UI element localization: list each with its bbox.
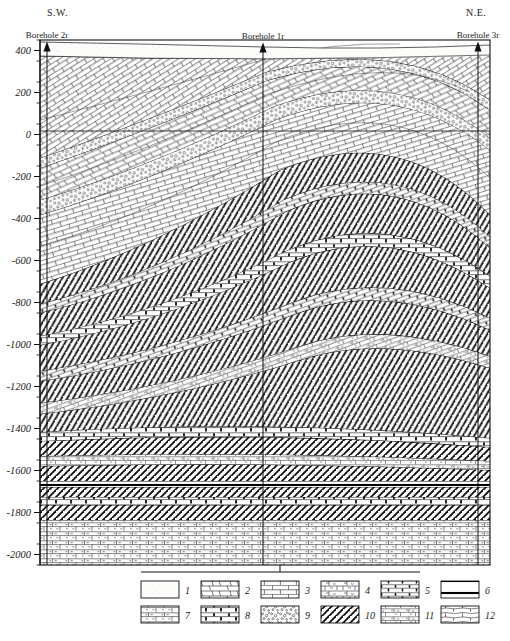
deep-layers: [40, 426, 490, 565]
swatch-1: [141, 581, 179, 598]
legend-number: 3: [304, 585, 310, 596]
y-tick-label: 200: [15, 87, 32, 98]
y-tick-label: -1400: [7, 423, 32, 434]
swatch-5: [381, 581, 419, 598]
y-tick-label: -2000: [7, 549, 32, 560]
borehole-label: Borehole 2r: [26, 30, 69, 40]
swatch-12: [441, 606, 479, 623]
legend-item: 6: [441, 581, 490, 598]
legend-group: 123456789101112: [141, 565, 495, 623]
y-tick-label-group: 4002000-200-400-600-800-1000-1200-1400-1…: [7, 45, 32, 560]
y-tick-label: 0: [26, 129, 32, 140]
borehole-label: Borehole 1r: [242, 31, 285, 41]
legend-number: 5: [425, 585, 430, 596]
legend-number: 2: [245, 585, 250, 596]
swatch-2: [201, 581, 239, 598]
legend-item: 5: [381, 581, 430, 598]
legend-item: 9: [261, 606, 310, 623]
swatch-10: [321, 606, 359, 623]
legend-number: 8: [245, 610, 250, 621]
legend-item: 10: [321, 606, 375, 623]
legend-item: 1: [141, 581, 190, 598]
swatch-7: [141, 606, 179, 623]
y-tick-label: -600: [12, 255, 32, 266]
swatch-9: [261, 606, 299, 623]
legend-number: 4: [365, 585, 370, 596]
y-tick-label: 400: [15, 45, 32, 56]
legend-number: 12: [485, 610, 495, 621]
legend-item: 3: [261, 581, 310, 598]
legend-item: 4: [321, 581, 370, 598]
y-tick-label: -1200: [7, 381, 32, 392]
cross-section-svg: 4002000-200-400-600-800-1000-1200-1400-1…: [0, 0, 510, 641]
orientation-label-sw: S.W.: [47, 7, 68, 18]
orientation-label-ne: N.E.: [466, 7, 486, 18]
swatch-6: [441, 581, 479, 598]
y-tick-label: -400: [12, 213, 32, 224]
legend-number: 1: [185, 585, 190, 596]
y-tick-label: -800: [12, 297, 32, 308]
swatch-11: [381, 606, 419, 623]
section-body: [40, 40, 490, 565]
legend-item: 12: [441, 606, 495, 623]
swatch-4: [321, 581, 359, 598]
borehole-label: Borehole 3r: [457, 30, 500, 40]
legend-number: 10: [365, 610, 375, 621]
y-tick-label: -200: [12, 171, 32, 182]
legend-item: 11: [381, 606, 434, 623]
y-tick-group: [34, 40, 40, 565]
legend-item: 7: [141, 606, 191, 623]
legend-number: 11: [425, 610, 434, 621]
y-tick-label: -1600: [7, 465, 32, 476]
y-tick-label: -1800: [7, 507, 32, 518]
legend-item: 8: [201, 606, 250, 623]
legend-number: 7: [185, 610, 191, 621]
y-tick-label: -1000: [7, 339, 32, 350]
legend-number: 6: [485, 585, 490, 596]
legend-item: 2: [201, 581, 250, 598]
swatch-8: [201, 606, 239, 623]
swatch-3: [261, 581, 299, 598]
geological-cross-section-figure: 4002000-200-400-600-800-1000-1200-1400-1…: [0, 0, 510, 641]
legend-number: 9: [305, 610, 310, 621]
